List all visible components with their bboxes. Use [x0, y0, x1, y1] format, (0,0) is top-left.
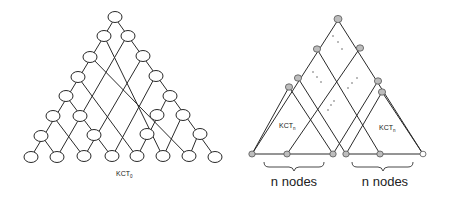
node: [294, 75, 301, 81]
node: [121, 31, 135, 42]
node: [46, 111, 60, 122]
node: [50, 152, 64, 163]
recursive-edges: [252, 20, 423, 154]
node: [87, 130, 101, 141]
left-brace: [264, 162, 324, 171]
kct0-nodes: [24, 12, 222, 163]
left-subtree-label: KCTn: [279, 122, 296, 131]
node: [377, 151, 383, 157]
node: [140, 129, 154, 140]
node: [130, 151, 144, 162]
node: [330, 151, 336, 157]
node: [73, 111, 87, 122]
node: [420, 151, 426, 157]
node: [105, 151, 119, 162]
node: [108, 12, 122, 23]
root-node: [334, 15, 342, 22]
kct0-lattice: KCT0: [24, 12, 222, 180]
node: [313, 46, 320, 52]
recursive-nodes: [249, 15, 426, 157]
kct-recursive-construction: KCTn KCTn n nodes n nodes: [249, 15, 426, 189]
right-subtree-root: [378, 89, 385, 95]
node: [356, 45, 363, 51]
diagram-canvas: KCT0: [0, 0, 449, 197]
node: [77, 151, 91, 162]
node: [284, 151, 290, 157]
node: [71, 72, 85, 83]
node: [374, 78, 381, 84]
right-brace: [352, 162, 413, 171]
right-brace-label: n nodes: [362, 174, 409, 189]
left-brace-label: n nodes: [271, 174, 318, 189]
node: [136, 51, 150, 62]
node: [163, 91, 177, 102]
node: [176, 110, 190, 121]
kct0-caption: KCT0: [116, 170, 133, 179]
node: [34, 131, 48, 142]
node: [193, 129, 207, 140]
node: [249, 151, 255, 157]
node: [156, 151, 170, 162]
node: [182, 151, 196, 162]
node: [150, 110, 164, 121]
node: [208, 152, 222, 163]
node: [24, 152, 38, 163]
node: [59, 91, 73, 102]
node: [149, 71, 163, 82]
node: [83, 52, 97, 63]
right-subtree-label: KCTn: [379, 124, 396, 133]
node: [343, 151, 349, 157]
left-subtree-root: [285, 84, 292, 90]
node: [97, 31, 111, 42]
